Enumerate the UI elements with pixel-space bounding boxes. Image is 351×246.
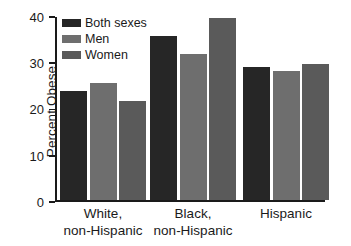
y-axis-tick: 30 <box>49 62 55 64</box>
bar <box>90 83 117 200</box>
legend-label: Both sexes <box>85 17 147 30</box>
legend-item-men: Men <box>62 32 147 46</box>
legend-item-both-sexes: Both sexes <box>62 16 147 30</box>
bar <box>150 36 177 200</box>
legend-label: Men <box>85 33 109 46</box>
x-axis-group-label-line: Black, <box>154 205 233 222</box>
bar-chart: Percent Obese 010203040 Both sexes Men W… <box>0 0 351 246</box>
y-axis-tick-label: 10 <box>30 149 44 162</box>
x-axis-group-label: Black,non-Hispanic <box>154 205 233 239</box>
legend-swatch-icon <box>62 19 81 27</box>
bar <box>243 67 270 200</box>
x-axis-line <box>55 200 325 202</box>
x-axis-group-label: White,non-Hispanic <box>64 205 143 239</box>
y-axis-tick-label: 20 <box>30 103 44 116</box>
y-axis-tick-label: 30 <box>30 57 44 70</box>
legend-item-women: Women <box>62 48 147 62</box>
legend-swatch-icon <box>62 35 81 43</box>
y-axis-tick: 20 <box>49 109 55 111</box>
x-axis-group-label-line: non-Hispanic <box>64 222 143 239</box>
legend: Both sexes Men Women <box>62 16 147 62</box>
y-axis-tick: 0 <box>49 201 55 203</box>
y-axis-tick: 40 <box>49 16 55 18</box>
x-axis-group-label-line: non-Hispanic <box>154 222 233 239</box>
x-axis-group-label: Hispanic <box>260 205 312 222</box>
y-axis-line <box>55 17 57 202</box>
bar <box>180 54 207 200</box>
bar <box>60 91 87 200</box>
bar <box>273 71 300 200</box>
y-axis-tick-label: 40 <box>30 11 44 24</box>
x-axis-group-label-line: Hispanic <box>260 205 312 222</box>
legend-swatch-icon <box>62 51 81 59</box>
y-axis-tick: 10 <box>49 155 55 157</box>
bar <box>209 18 236 200</box>
bar <box>119 101 146 201</box>
legend-label: Women <box>85 49 128 62</box>
x-axis-group-label-line: White, <box>64 205 143 222</box>
bar <box>302 64 329 200</box>
x-axis-labels: White,non-HispanicBlack,non-HispanicHisp… <box>0 205 351 246</box>
